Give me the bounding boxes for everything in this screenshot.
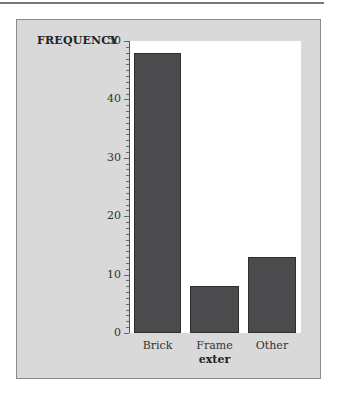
x-category-label: Other [242,339,302,352]
y-axis-line [129,41,130,333]
x-category-label: Brick [128,339,188,352]
y-tick-label: 30 [97,151,121,164]
bar-brick [134,53,181,333]
y-tick-label: 20 [97,209,121,222]
top-rule [0,2,324,4]
y-tick-label: 10 [97,268,121,281]
y-tick-label: 0 [97,326,121,339]
y-tick-label: 40 [97,92,121,105]
bar-frame [190,286,239,333]
bar-other [248,257,296,333]
x-category-label: Frame [185,339,245,352]
x-axis-title: exter [185,353,245,366]
y-axis-title: FREQUENCY [37,34,118,47]
y-major-tick [124,333,129,334]
